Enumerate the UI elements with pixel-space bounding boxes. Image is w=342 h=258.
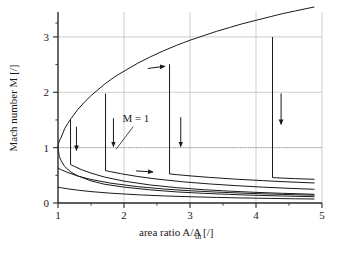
chart-background: [0, 0, 342, 258]
mach-one-label: M = 1: [122, 112, 149, 124]
y-tick-label: 0: [44, 197, 50, 209]
x-axis-title-subscript: th: [195, 232, 201, 241]
y-tick-label: 2: [44, 86, 50, 98]
y-tick-label: 3: [44, 31, 50, 43]
chart-figure: 123450123 M = 1 Mach number M [/] area r…: [0, 0, 342, 258]
x-tick-label: 1: [55, 209, 61, 221]
x-tick-label: 4: [253, 209, 259, 221]
mach-number-area-ratio-chart: 123450123 M = 1 Mach number M [/] area r…: [0, 0, 342, 258]
y-tick-label: 1: [44, 142, 50, 154]
x-axis-title-main: area ratio A/A: [139, 226, 201, 238]
y-axis-title: Mach number M [/]: [7, 64, 19, 151]
x-tick-label: 3: [187, 209, 193, 221]
x-axis-title-tail: [/]: [203, 226, 213, 238]
x-tick-label: 5: [319, 209, 325, 221]
x-tick-label: 2: [121, 209, 127, 221]
